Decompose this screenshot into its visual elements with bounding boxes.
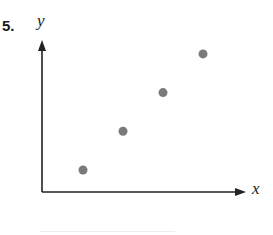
x-arrow-icon [235,188,246,196]
data-point [159,88,168,97]
scatter-plot [0,0,273,235]
axes [38,40,246,196]
data-points [79,49,208,174]
data-point [199,49,208,58]
y-arrow-icon [38,40,46,51]
data-point [79,166,88,175]
data-point [119,127,128,136]
divider [40,231,175,232]
